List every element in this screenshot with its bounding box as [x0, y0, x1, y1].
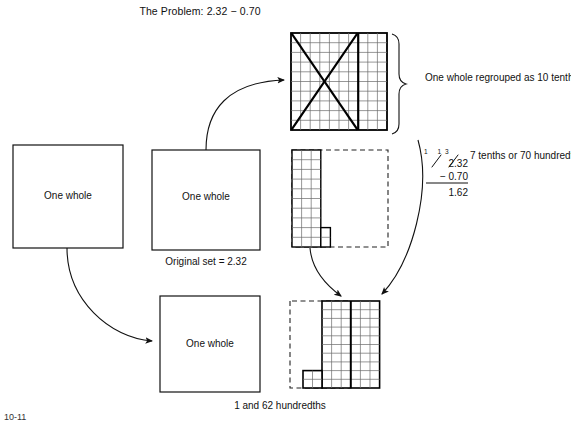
arrow-thirty-two-to-answer [310, 248, 341, 296]
calculation-minuend: 2.32 [418, 158, 468, 171]
note-regrouped-whole: One whole regrouped as 10 tenths or 100 … [425, 72, 565, 85]
arrow-middle-whole-to-regrouped-grid [206, 80, 284, 150]
one-whole-label-middle: One whole [152, 191, 260, 204]
brace-regrouped [392, 34, 406, 134]
figure-number: 10-11 [4, 412, 26, 423]
calculation-carry-digits: 1 13 [424, 148, 468, 156]
calculation-result: 1.62 [418, 187, 468, 200]
thirty-two-hundredths-block [292, 150, 388, 247]
decimal-subtraction-figure: The Problem: 2.32 − 0.70 One whole One w… [0, 0, 571, 425]
sixty-two-hundredths-block [290, 301, 380, 388]
caption-answer: 1 and 62 hundredths [170, 400, 390, 413]
diagram-vector-layer [0, 0, 571, 425]
page-title: The Problem: 2.32 − 0.70 [0, 5, 400, 18]
one-whole-label-bottom: One whole [160, 338, 260, 351]
calculation-subtrahend: − 0.70 [418, 171, 468, 184]
one-whole-label-left: One whole [13, 190, 123, 203]
regrouped-hundredths-grid [291, 33, 387, 130]
caption-original-set: Original set = 2.32 [140, 256, 272, 269]
note-removed-tenths: 7 tenths or 70 hundredths removed (cross… [470, 150, 568, 163]
